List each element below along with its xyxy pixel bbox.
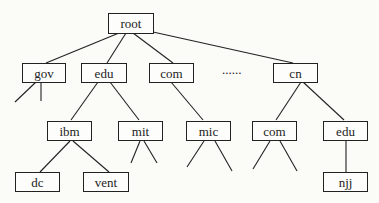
edge-root-cn (153, 32, 293, 63)
edge-ibm-dc (40, 141, 70, 172)
edge-mic-open-1 (187, 141, 204, 167)
edge-cncom-open-1 (253, 141, 270, 169)
node-cn-edu: edu (323, 121, 368, 141)
edge-mit-open-2 (144, 141, 157, 163)
edge-edu-mit (110, 82, 139, 120)
edge-root-edu (107, 33, 126, 63)
ellipsis-more-nodes: ...... (222, 62, 242, 78)
node-root: root (108, 13, 154, 34)
edge-mic-open-2 (215, 141, 232, 171)
edge-gov-open-1 (15, 82, 36, 102)
node-dc: dc (15, 172, 60, 192)
edge-ibm-vent (73, 141, 109, 172)
edge-cncom-open-2 (280, 141, 297, 171)
node-mic: mic (186, 121, 231, 141)
node-com: com (149, 63, 194, 83)
node-gov: gov (22, 63, 66, 83)
node-vent: vent (83, 172, 129, 192)
node-edu: edu (81, 63, 127, 83)
node-ibm: ibm (47, 121, 92, 141)
edge-cn-com (276, 82, 301, 120)
node-cn: cn (273, 63, 318, 83)
edge-root-gov (46, 33, 119, 63)
edge-cn-edu (303, 82, 344, 120)
edge-mit-open-1 (131, 141, 140, 163)
node-mit: mit (118, 121, 163, 141)
edge-root-com (133, 33, 173, 63)
edge-com-mic (171, 82, 203, 120)
node-njj: njj (323, 172, 368, 192)
node-cn-com: com (252, 121, 297, 141)
edge-edu-ibm (71, 82, 98, 120)
